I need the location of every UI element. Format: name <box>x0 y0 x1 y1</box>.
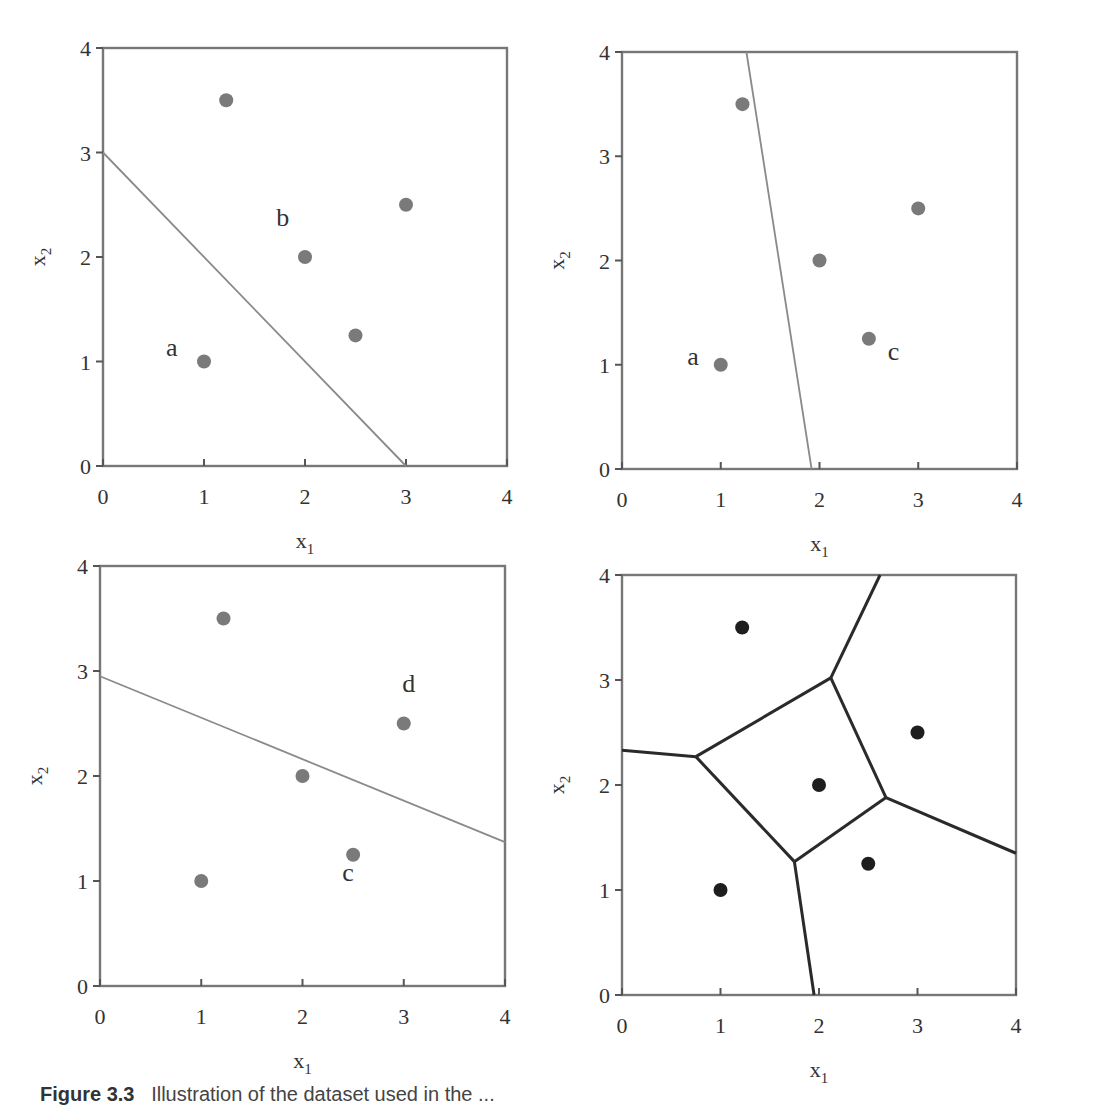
x-tick-label: 4 <box>502 484 513 509</box>
data-point <box>217 612 231 626</box>
point-annotation-b: b <box>276 203 289 232</box>
x-tick-label: 0 <box>617 1013 628 1038</box>
y-tick-label: 2 <box>599 249 610 274</box>
y-tick-label: 0 <box>599 457 610 482</box>
y-tick-label: 3 <box>599 144 610 169</box>
caption-text: Illustration of the dataset used in the … <box>151 1083 495 1105</box>
decision-boundary-line <box>100 676 505 842</box>
data-point <box>911 726 925 740</box>
y-tick-label: 4 <box>599 40 610 65</box>
data-point <box>911 201 925 215</box>
data-point <box>714 358 728 372</box>
data-point <box>735 97 749 111</box>
panel-bottom-right-voronoi: 0123401234x1x2 <box>544 563 1022 1086</box>
voronoi-edge <box>831 575 880 678</box>
y-axis-label: x2 <box>25 248 54 267</box>
y-tick-label: 0 <box>599 983 610 1008</box>
panel-top-right: 0123401234x1x2ac <box>544 40 1023 560</box>
x-tick-label: 2 <box>814 487 825 512</box>
y-tick-label: 4 <box>80 36 91 61</box>
x-tick-label: 4 <box>1011 1013 1022 1038</box>
data-point <box>735 621 749 635</box>
data-point <box>197 355 211 369</box>
y-axis-label: x2 <box>22 767 51 786</box>
x-tick-label: 0 <box>98 484 109 509</box>
data-point <box>219 93 233 107</box>
x-axis-label: x1 <box>296 528 315 557</box>
y-tick-label: 2 <box>80 245 91 270</box>
data-point <box>862 332 876 346</box>
data-point <box>349 328 363 342</box>
y-tick-label: 3 <box>77 659 88 684</box>
y-tick-label: 2 <box>599 773 610 798</box>
x-tick-label: 2 <box>300 484 311 509</box>
y-tick-label: 2 <box>77 764 88 789</box>
panel-bottom-left: 0123401234x1x2dc <box>22 554 511 1077</box>
y-tick-label: 1 <box>77 869 88 894</box>
y-tick-label: 1 <box>599 878 610 903</box>
panel-top-left: 0123401234x1x2ab <box>25 36 513 557</box>
data-point <box>296 769 310 783</box>
data-point <box>812 778 826 792</box>
data-point <box>714 883 728 897</box>
y-tick-label: 1 <box>80 350 91 375</box>
x-tick-label: 0 <box>617 487 628 512</box>
x-axis-label: x1 <box>810 1057 829 1086</box>
caption-label: Figure 3.3 <box>40 1083 134 1105</box>
data-point <box>861 857 875 871</box>
y-tick-label: 0 <box>80 454 91 479</box>
x-tick-label: 1 <box>196 1004 207 1029</box>
data-point <box>397 717 411 731</box>
y-axis-label: x2 <box>544 251 573 270</box>
decision-boundary-line <box>746 52 811 469</box>
x-tick-label: 4 <box>1012 487 1023 512</box>
point-annotation-a: a <box>166 333 178 362</box>
point-annotation-d: d <box>402 669 415 698</box>
x-tick-label: 4 <box>500 1004 511 1029</box>
y-tick-label: 3 <box>80 141 91 166</box>
voronoi-edge <box>831 678 886 798</box>
y-tick-label: 4 <box>599 563 610 588</box>
voronoi-edge <box>622 750 696 756</box>
y-axis-label: x2 <box>544 776 573 795</box>
x-tick-label: 3 <box>398 1004 409 1029</box>
data-point <box>813 254 827 268</box>
point-annotation-c: c <box>888 337 900 366</box>
voronoi-edge <box>794 798 886 862</box>
figure-caption: Figure 3.3 Illustration of the dataset u… <box>40 1083 495 1106</box>
voronoi-edge <box>696 757 795 862</box>
decision-boundary-line <box>103 153 406 467</box>
point-annotation-c: c <box>342 858 354 887</box>
x-axis-label: x1 <box>293 1048 312 1077</box>
x-tick-label: 1 <box>199 484 210 509</box>
x-axis-label: x1 <box>810 531 829 560</box>
x-tick-label: 0 <box>95 1004 106 1029</box>
point-annotation-a: a <box>687 342 699 371</box>
y-tick-label: 3 <box>599 668 610 693</box>
x-tick-label: 3 <box>912 1013 923 1038</box>
data-point <box>298 250 312 264</box>
voronoi-edge <box>696 678 831 757</box>
y-tick-label: 0 <box>77 974 88 999</box>
x-tick-label: 3 <box>401 484 412 509</box>
voronoi-edge <box>794 862 814 995</box>
x-tick-label: 2 <box>814 1013 825 1038</box>
x-tick-label: 1 <box>715 1013 726 1038</box>
voronoi-edge <box>886 798 1016 854</box>
y-tick-label: 1 <box>599 353 610 378</box>
x-tick-label: 2 <box>297 1004 308 1029</box>
data-point <box>194 874 208 888</box>
data-point <box>399 198 413 212</box>
x-tick-label: 1 <box>715 487 726 512</box>
x-tick-label: 3 <box>913 487 924 512</box>
y-tick-label: 4 <box>77 554 88 579</box>
